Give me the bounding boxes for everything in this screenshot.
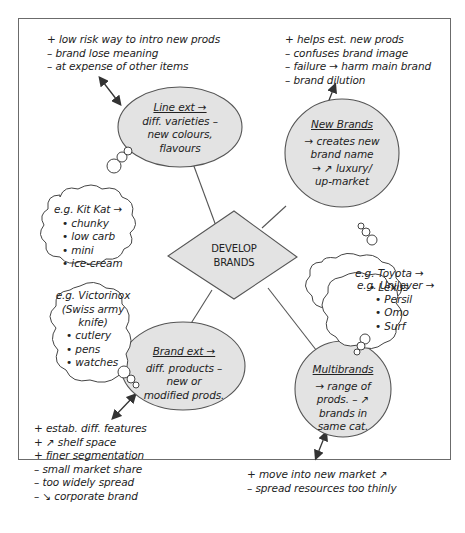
- body-line: flavours: [125, 142, 235, 156]
- note: – failure → harm main brand: [285, 60, 431, 74]
- body-line: brand name: [290, 148, 394, 162]
- multibrands-notes: + move into new market ↗ – spread resour…: [247, 468, 397, 495]
- example-line: • mini: [54, 244, 123, 258]
- note: – spread resources too thinly: [247, 482, 397, 496]
- kitkat-example: e.g. Kit Kat → • chunky • low carb • min…: [54, 203, 123, 271]
- line-ext-title: Line ext →: [125, 101, 235, 115]
- body-line: brands in: [295, 407, 391, 421]
- example-line: • low carb: [54, 230, 123, 244]
- note: + finer segmentation: [34, 449, 147, 463]
- bubble-dot: [354, 349, 360, 355]
- note: + estab. diff. features: [34, 422, 147, 436]
- center-line-1: DEVELOP: [198, 242, 270, 256]
- arrow-line-ext-notes: [100, 78, 120, 104]
- body-line: diff. products –: [130, 362, 238, 376]
- note: – ↘ corporate brand: [34, 490, 147, 504]
- note: + helps est. new prods: [285, 33, 431, 47]
- arrow-multibrands-notes: [316, 433, 326, 458]
- line-ext-notes: + low risk way to intro new prods – bran…: [47, 33, 220, 74]
- body-line: same cat.: [295, 420, 391, 434]
- center-label: DEVELOP BRANDS: [198, 242, 270, 269]
- new-brands-node-text: New Brands → creates new brand name → ↗ …: [290, 118, 394, 189]
- body-line: → creates new: [290, 135, 394, 149]
- new-brands-title: New Brands: [290, 118, 394, 132]
- example-line: • Omo: [357, 306, 434, 320]
- example-line: • watches: [66, 356, 118, 370]
- example-line: e.g. Kit Kat →: [54, 203, 123, 217]
- note: + move into new market ↗: [247, 468, 397, 482]
- note: + ↗ shelf space: [34, 436, 147, 450]
- note: – small market share: [34, 463, 147, 477]
- example-line: • Surf: [357, 320, 434, 334]
- note: – brand dilution: [285, 74, 431, 88]
- example-line: • chunky: [54, 217, 123, 231]
- victorinox-items: • cutlery • pens • watches: [66, 329, 118, 370]
- multibrands-title: Multibrands: [295, 363, 391, 377]
- example-line: e.g. Victorinox: [52, 289, 134, 303]
- brand-ext-node-text: Brand ext → diff. products – new or modi…: [130, 345, 238, 402]
- body-line: → ↗ luxury/: [290, 162, 394, 176]
- body-line: diff. varieties –: [125, 115, 235, 129]
- new-brands-notes: + helps est. new prods – confuses brand …: [285, 33, 431, 87]
- example-line: knife): [52, 316, 134, 330]
- line-ext-node-text: Line ext → diff. varieties – new colours…: [125, 101, 235, 155]
- connector-brand-ext: [190, 290, 212, 325]
- body-line: new colours,: [125, 128, 235, 142]
- unilever-example: e.g. Unilever → • Persil • Omo • Surf: [357, 279, 434, 333]
- body-line: modified prods.: [130, 389, 238, 403]
- note: + low risk way to intro new prods: [47, 33, 220, 47]
- bubble-dot: [362, 228, 370, 236]
- example-line: • Persil: [357, 293, 434, 307]
- brand-ext-notes: + estab. diff. features + ↗ shelf space …: [34, 422, 147, 503]
- victorinox-example: e.g. Victorinox (Swiss army knife): [52, 289, 134, 330]
- bubble-dot: [367, 235, 377, 245]
- body-line: up-market: [290, 175, 394, 189]
- example-line: • ice-cream: [54, 257, 123, 271]
- connector-new-brands: [262, 206, 286, 228]
- center-line-2: BRANDS: [198, 256, 270, 270]
- note: – confuses brand image: [285, 47, 431, 61]
- bubble-dot: [358, 223, 364, 229]
- body-line: new or: [130, 375, 238, 389]
- example-line: e.g. Unilever →: [357, 279, 434, 293]
- note: – too widely spread: [34, 476, 147, 490]
- example-line: (Swiss army: [52, 303, 134, 317]
- multibrands-node-text: Multibrands → range of prods. – ↗ brands…: [295, 363, 391, 434]
- body-line: prods. – ↗: [295, 393, 391, 407]
- body-line: → range of: [295, 380, 391, 394]
- example-line: • cutlery: [66, 329, 118, 343]
- brand-ext-title: Brand ext →: [130, 345, 238, 359]
- note: – brand lose meaning: [47, 47, 220, 61]
- example-line: • pens: [66, 343, 118, 357]
- note: – at expense of other items: [47, 60, 220, 74]
